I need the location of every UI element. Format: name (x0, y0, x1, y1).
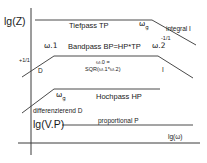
x-axis-label: lg(ω) (168, 134, 182, 141)
gain-axis-label: lg(V.P) (33, 119, 64, 130)
bandpass-center-frequency-formula-line1: ω.0 = (96, 60, 110, 66)
bandpass-label: Bandpass BP=HP*TP (68, 43, 141, 51)
bandpass-center-frequency-formula-line2: SQR(ω.1*ω.2) (85, 67, 120, 73)
highpass-corner-frequency: ωg (56, 91, 66, 101)
highpass-label: Hochpass HP (96, 93, 142, 101)
bode-diagram-canvas: lg(Z) Tiefpass TP ωg integral I -1/1 ω.1… (0, 0, 207, 163)
bandpass-lower-corner-label: ω.1 (44, 42, 57, 50)
bandpass-left-behavior-label: D (38, 68, 43, 75)
lowpass-corner-frequency: ωg (139, 20, 149, 30)
bandpass-right-behavior-label: I (162, 67, 164, 74)
lowpass-corner-frequency-subscript: g (145, 24, 148, 30)
lowpass-label: Tiefpass TP (69, 22, 109, 30)
highpass-corner-frequency-subscript: g (62, 95, 65, 101)
lowpass-behavior-label: integral I (166, 26, 191, 33)
proportional-label: proportional P (98, 118, 138, 125)
y-axis-label: lg(Z) (4, 16, 26, 27)
bandpass-upper-corner-label: ω.2 (152, 42, 165, 50)
bandpass-slope-label: +1/1 (19, 58, 30, 64)
highpass-behavior-label: differenzierend D (33, 108, 82, 115)
